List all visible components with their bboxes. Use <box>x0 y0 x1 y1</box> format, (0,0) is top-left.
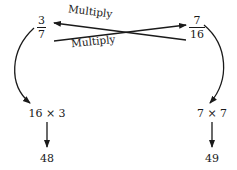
right-result: 49 <box>205 152 219 165</box>
right-denominator: 16 <box>189 29 205 40</box>
left-numerator: 3 <box>37 15 46 26</box>
left-result: 48 <box>40 152 54 165</box>
right-numerator: 7 <box>189 15 205 26</box>
right-fraction: 7 16 <box>189 15 205 40</box>
right-product-expression: 7 × 7 <box>197 107 227 120</box>
curve-left <box>15 28 34 103</box>
left-fraction: 3 7 <box>37 15 46 40</box>
curve-right <box>204 25 224 103</box>
left-product-expression: 16 × 3 <box>28 107 65 120</box>
left-denominator: 7 <box>37 29 46 40</box>
